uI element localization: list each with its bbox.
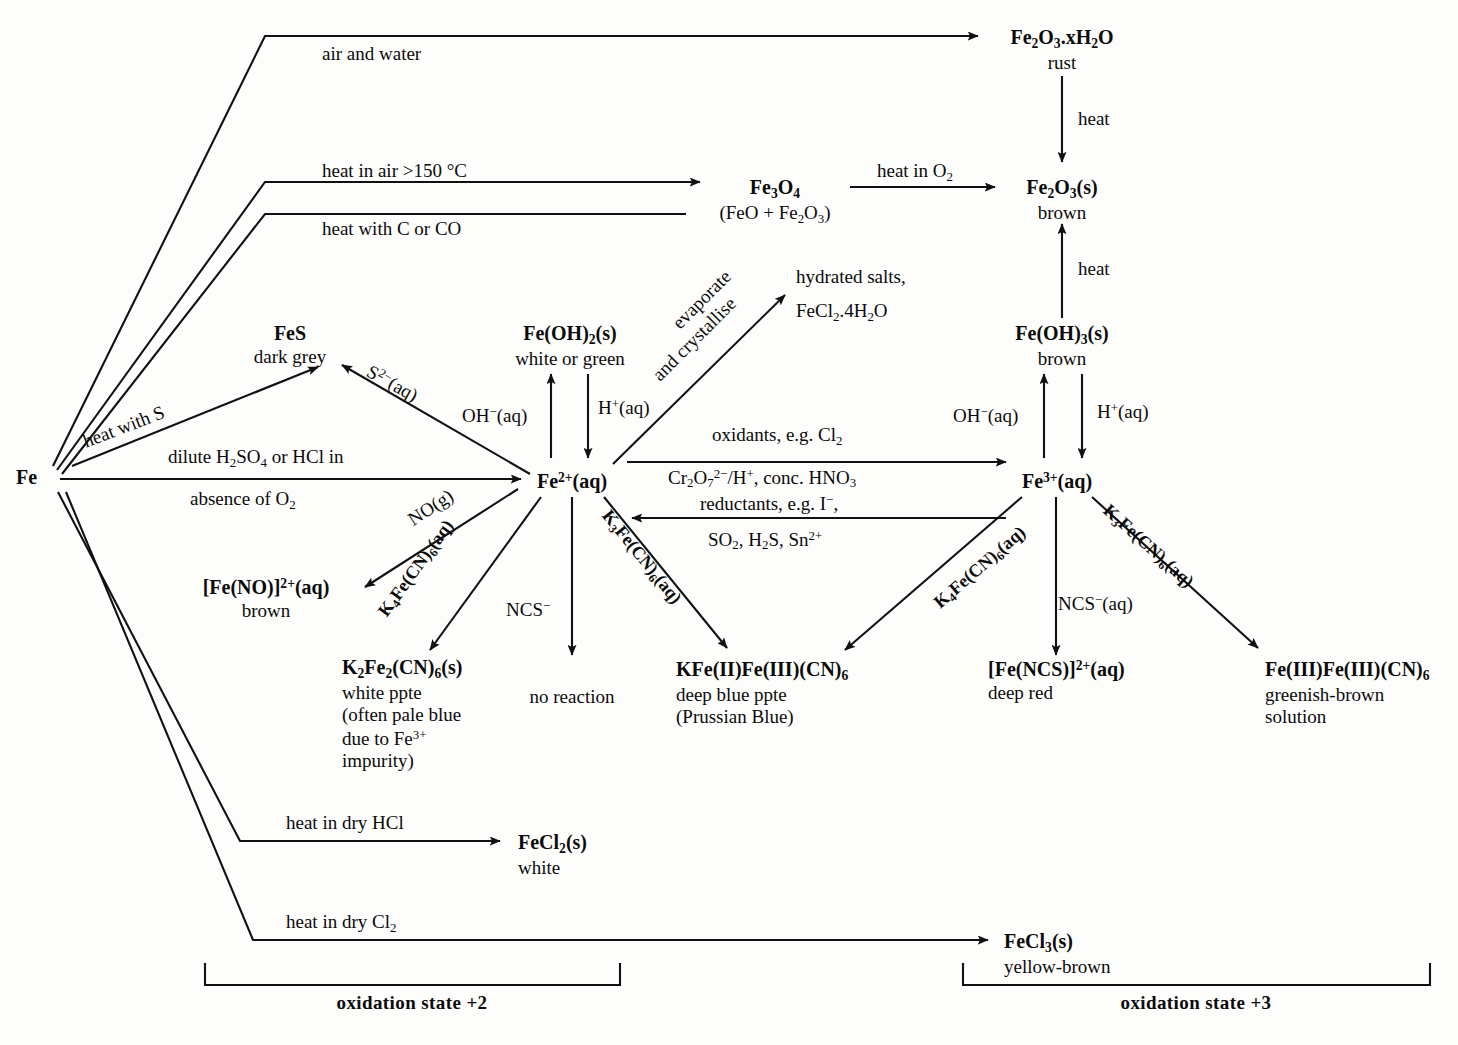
edge-label-heat-in-air: heat in air >150 °C: [322, 160, 467, 182]
arrow-fe3-to-prussian-blue: [845, 497, 1022, 650]
edge-label-heat-dry-hcl: heat in dry HCl: [286, 812, 404, 834]
edge-label-heat-feoh3: heat: [1078, 258, 1110, 280]
arrow-fe-to-rust: [53, 36, 978, 466]
edge-label-oxidants-2: Cr2O72−/H+, conc. HNO3: [668, 466, 856, 491]
node-feno: [Fe(NO)]2+(aq) brown: [203, 576, 330, 622]
edge-label-heat-dry-cl2: heat in dry Cl2: [286, 911, 396, 935]
edge-label-dilute-acid-1: dilute H2SO4 or HCl in: [168, 446, 343, 470]
node-fe3plus: Fe3+(aq): [1022, 470, 1092, 494]
edge-label-reductants-2: SO2, H2S, Sn2+: [708, 528, 822, 553]
edge-label-dilute-acid-2: absence of O2: [190, 488, 296, 512]
edge-label-heat-rust: heat: [1078, 108, 1110, 130]
edge-label-oxidants-1: oxidants, e.g. Cl2: [712, 424, 842, 448]
edge-label-h-fe2: H+(aq): [598, 396, 650, 419]
node-feoh2: Fe(OH)2(s) white or green: [515, 322, 625, 370]
edge-label-oh-fe2: OH−(aq): [462, 404, 527, 427]
node-rust: Fe2O3.xH2O rust: [1010, 26, 1113, 74]
node-feoh3: Fe(OH)3(s) brown: [1015, 322, 1108, 370]
node-k2fe2cn6: K2Fe2(CN)6(s) white ppte (often pale blu…: [342, 656, 462, 772]
edge-label-air-and-water: air and water: [322, 43, 421, 65]
node-fes: FeS dark grey: [254, 322, 326, 368]
bracket-label-oxidation-state-2: oxidation state +2: [336, 992, 487, 1014]
edge-label-reductants-1: reductants, e.g. I−,: [700, 492, 838, 515]
node-fecl3: FeCl3(s) yellow-brown: [1004, 930, 1111, 978]
edge-label-ncs-fe3: NCS−(aq): [1058, 592, 1133, 615]
arrow-layer: [0, 0, 1458, 1045]
bracket-oxidation-state-2: [205, 963, 620, 985]
edge-label-heat-in-o2: heat in O2: [877, 160, 953, 184]
edge-label-ncs-fe2: NCS−: [506, 598, 550, 621]
edge-label-h-fe3: H+(aq): [1097, 400, 1149, 423]
node-prussian-blue: KFe(II)Fe(III)(CN)6 deep blue ppte (Prus…: [676, 658, 848, 729]
bracket-label-oxidation-state-3: oxidation state +3: [1120, 992, 1271, 1014]
node-hydrated-salts: hydrated salts, FeCl2.4H2O: [796, 266, 906, 324]
iron-reactions-diagram: Fe Fe2O3.xH2O rust Fe3O4 (FeO + Fe2O3) F…: [0, 0, 1458, 1045]
edge-label-heat-with-c-or-co: heat with C or CO: [322, 218, 461, 240]
node-no-reaction: no reaction: [530, 686, 615, 708]
node-fe3o4: Fe3O4 (FeO + Fe2O3): [719, 176, 830, 226]
node-fecl2: FeCl2(s) white: [518, 831, 587, 879]
node-fe: Fe: [16, 466, 37, 490]
node-fencs: [Fe(NCS)]2+(aq) deep red: [988, 658, 1125, 704]
edge-label-oh-fe3: OH−(aq): [953, 404, 1018, 427]
node-fe2o3: Fe2O3(s) brown: [1026, 176, 1097, 224]
node-feiiifeiii: Fe(III)Fe(III)(CN)6 greenish-brown solut…: [1265, 658, 1430, 729]
node-fe2plus: Fe2+(aq): [537, 470, 607, 494]
